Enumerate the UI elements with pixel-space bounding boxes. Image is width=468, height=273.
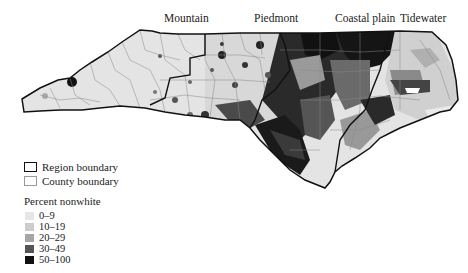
region-label-piedmont: Piedmont bbox=[254, 12, 298, 24]
legend-class-label: 10–19 bbox=[39, 221, 65, 232]
region-label-mountain: Mountain bbox=[164, 12, 209, 24]
legend-label: Region boundary bbox=[42, 161, 118, 173]
legend-county-boundary: County boundary bbox=[24, 174, 119, 187]
legend-class-label: 50–100 bbox=[39, 254, 71, 265]
legend-swatch bbox=[25, 223, 34, 231]
map-legend: Region boundary County boundary Percent … bbox=[24, 160, 119, 265]
legend-region-boundary: Region boundary bbox=[24, 160, 119, 173]
legend-swatch bbox=[25, 212, 34, 220]
county-boundary-swatch bbox=[24, 176, 37, 186]
legend-title: Percent nonwhite bbox=[24, 195, 119, 207]
region-label-coastal-plain: Coastal plain bbox=[335, 12, 395, 24]
legend-class: 0–9 bbox=[25, 210, 119, 221]
legend-swatch bbox=[25, 256, 34, 264]
region-label-tidewater: Tidewater bbox=[400, 12, 446, 24]
legend-class: 50–100 bbox=[25, 254, 119, 265]
legend-class: 20–29 bbox=[25, 232, 119, 243]
legend-class-label: 30–49 bbox=[39, 243, 65, 254]
legend-class: 10–19 bbox=[25, 221, 119, 232]
legend-swatch bbox=[25, 234, 34, 242]
legend-class: 30–49 bbox=[25, 243, 119, 254]
legend-label: County boundary bbox=[42, 175, 119, 187]
region-boundary-swatch bbox=[24, 162, 37, 172]
legend-swatch bbox=[25, 245, 34, 253]
legend-class-label: 0–9 bbox=[39, 210, 55, 221]
legend-class-label: 20–29 bbox=[39, 232, 65, 243]
